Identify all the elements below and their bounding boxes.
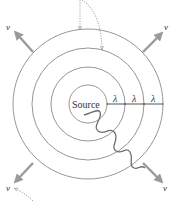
velocity-label-top-right: v — [164, 22, 168, 32]
callout-to-bottom-left-arrow — [16, 189, 33, 201]
source-label: Source — [72, 99, 100, 110]
velocity-label-bottom-left: v — [6, 183, 10, 193]
callout-to-second-wavefront — [82, 0, 102, 48]
wavelength-label-1: λ — [112, 93, 118, 104]
velocity-label-top-left: v — [6, 22, 10, 32]
wavelength-label-3: λ — [150, 93, 156, 104]
arrow-bottom-left-icon — [17, 163, 33, 180]
velocity-label-bottom-right: v — [163, 183, 167, 193]
arrow-top-right-icon — [143, 35, 160, 52]
arrow-top-left-icon — [17, 34, 33, 52]
wavelength-label-2: λ — [131, 93, 137, 104]
wavefront-diagram: λ λ λ Source v v v v — [0, 0, 179, 203]
arrow-bottom-right-icon — [143, 163, 160, 180]
